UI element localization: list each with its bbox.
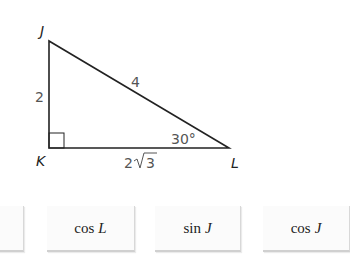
triangle-jkl — [49, 41, 229, 148]
right-angle-marker — [49, 133, 64, 148]
triangle-diagram: J K L 2 4 30° 2 3 — [0, 0, 349, 190]
angle-l-measure: 30° — [171, 131, 196, 147]
vertex-k-label: K — [36, 153, 47, 169]
side-jl-length: 4 — [131, 74, 140, 90]
vertex-j-label: J — [37, 23, 44, 39]
answer-tile-1[interactable] — [0, 206, 24, 252]
svg-text:2: 2 — [124, 155, 133, 171]
tile-func: cos — [291, 220, 311, 237]
side-jk-length: 2 — [35, 89, 44, 105]
svg-text:3: 3 — [146, 155, 155, 171]
answer-tile-sin-j[interactable]: sinJ — [155, 206, 241, 252]
tile-func: sin — [183, 220, 201, 237]
answer-tile-cos-j[interactable]: cosJ — [263, 206, 350, 252]
tile-var: J — [205, 220, 212, 237]
side-kl-length: 2 3 — [124, 153, 157, 171]
tile-var: J — [315, 220, 322, 237]
answer-tile-cos-l[interactable]: cosL — [47, 206, 135, 252]
tile-func: cos — [74, 220, 94, 237]
vertex-l-label: L — [231, 155, 239, 171]
tile-var: L — [98, 220, 106, 237]
